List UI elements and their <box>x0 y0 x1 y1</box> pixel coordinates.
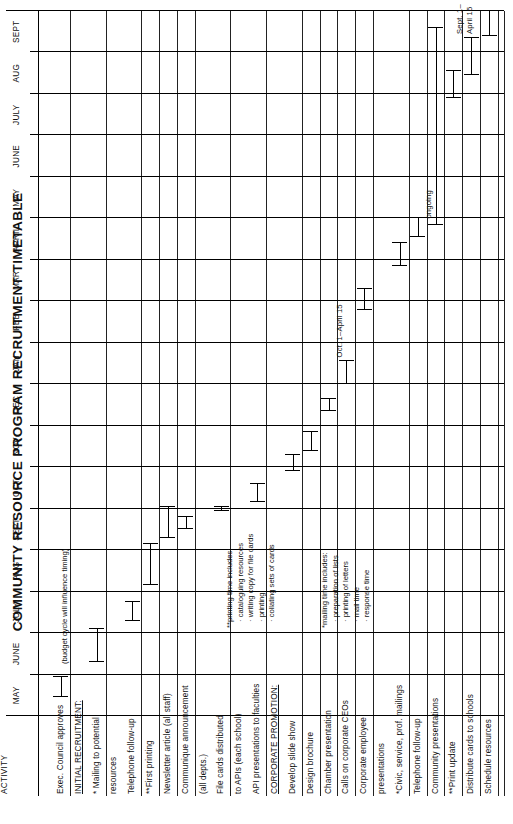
task-bar <box>453 71 454 98</box>
row-separator <box>177 11 178 796</box>
activity-label: Design brochure <box>306 732 315 794</box>
footnote-mailing: *mailing time includes: · preparation of… <box>320 552 373 628</box>
task-bar-end-cap <box>89 628 104 629</box>
task-bar <box>168 507 169 538</box>
activity-label: **Print update <box>448 741 457 794</box>
month-gridline <box>38 217 504 218</box>
annotation-sept-april: Sept. 1–April 15 <box>455 4 474 34</box>
task-bar-start-cap <box>143 584 158 585</box>
budget-note: (budget cycle will influence timing) <box>60 549 69 664</box>
task-bar-start-cap <box>250 501 265 502</box>
task-bar <box>97 629 98 662</box>
activity-label: File cards distributed <box>216 715 225 794</box>
task-bar-end-cap <box>446 70 461 71</box>
task-bar-start-cap <box>339 383 354 384</box>
task-bar-end-cap <box>285 454 300 455</box>
activity-label: Newsletter article (all staff) <box>163 693 172 794</box>
footnote-printing: **printing time includes: · cataloguing … <box>225 534 278 628</box>
task-bar-start-cap <box>392 265 407 266</box>
footnote-mailing-item: · mail time <box>352 552 363 628</box>
task-bar-start-cap <box>178 528 193 529</box>
task-bar-end-cap <box>53 676 68 677</box>
month-label-mar-10: MAR <box>12 271 21 290</box>
month-gridline <box>38 342 504 343</box>
task-bar-start-cap <box>446 97 461 98</box>
task-bar <box>150 544 151 585</box>
month-label-july-2: JULY <box>12 602 21 623</box>
month-gridline <box>38 259 504 260</box>
month-gridline <box>38 383 504 384</box>
activity-label: INITIAL RECRUITMENT: <box>74 700 83 794</box>
activity-column-header: ACTIVITY <box>0 755 9 794</box>
row-separator <box>266 11 267 796</box>
activity-label: *Civic, service, prof. mailings <box>395 685 404 794</box>
task-bar-start-cap <box>464 74 479 75</box>
month-label-aug-15: AUG <box>12 64 21 83</box>
task-bar <box>418 218 419 237</box>
task-bar <box>364 289 365 310</box>
activity-label: Develop slide show <box>288 721 297 794</box>
month-gridline <box>38 466 504 467</box>
activity-label: Schedule resources <box>484 719 493 794</box>
row-separator <box>106 11 107 796</box>
task-bar <box>489 11 490 36</box>
row-separator <box>70 11 71 796</box>
task-bar <box>257 484 258 503</box>
task-bar-end-cap <box>482 10 497 11</box>
footnote-mailing-item: · preparation of lists <box>331 552 342 628</box>
task-bar <box>346 361 347 384</box>
footnote-printing-item: · collating sets of cards <box>267 534 278 628</box>
bottom-rule <box>504 11 505 796</box>
task-bar-end-cap <box>303 431 318 432</box>
month-label-nov-6: NOV <box>12 437 21 456</box>
footnote-mailing-item: · response time <box>362 552 373 628</box>
timetable-chart: COMMUNITY RESOURCE PROGRAM RECRUITMENT T… <box>0 0 513 824</box>
activity-label: Telephone follow-up <box>127 718 136 794</box>
rotated-page-wrapper: COMMUNITY RESOURCE PROGRAM RECRUITMENT T… <box>0 0 513 824</box>
row-separator <box>480 11 481 796</box>
footnote-printing-item: · cataloguing resources <box>236 534 247 628</box>
row-separator <box>320 11 321 796</box>
task-bar <box>132 602 133 621</box>
footnote-printing-item: · printing <box>257 534 268 628</box>
month-label-june-1: JUNE <box>12 643 21 666</box>
task-bar <box>400 243 401 266</box>
month-label-july-14: JULY <box>12 104 21 125</box>
footnote-mailing-heading: *mailing time includes: <box>320 552 331 628</box>
task-bar-start-cap <box>160 537 175 538</box>
row-separator <box>230 11 231 796</box>
task-bar-end-cap <box>143 543 158 544</box>
row-separator <box>159 11 160 796</box>
task-bar-end-cap <box>428 27 443 28</box>
task-bar-end-cap <box>321 398 336 399</box>
month-gridline <box>38 674 504 675</box>
month-axis: MAYJUNEJULYAUGSEPTOCTNOVDECJANFEBMARAPRI… <box>6 11 36 716</box>
activity-label: (all depts.) <box>199 754 208 794</box>
row-separator <box>355 11 356 796</box>
activity-label: Exec. Council approves <box>56 705 65 794</box>
row-separator <box>141 11 142 796</box>
month-gridline <box>38 632 504 633</box>
month-label-jan-8: JAN <box>12 355 21 371</box>
row-separator <box>409 11 410 796</box>
task-bar <box>471 38 472 75</box>
activity-label: Corporate employee <box>359 717 368 794</box>
activity-label: Community presentations <box>431 698 440 794</box>
month-gridline <box>38 93 504 94</box>
task-bar <box>293 455 294 472</box>
activity-label: presentations <box>377 743 386 794</box>
activity-label: **First printing <box>145 740 154 794</box>
month-label-may-0: MAY <box>12 686 21 704</box>
footnote-mailing-item: · printing of letters <box>341 552 352 628</box>
month-label-april-11: APRIL <box>12 227 21 252</box>
activity-label: CORPORATE PROMOTION: <box>270 685 279 794</box>
activity-label: to APIs (each school) <box>234 713 243 794</box>
row-separator <box>302 11 303 796</box>
task-bar-start-cap <box>321 410 336 411</box>
task-bar-end-cap <box>464 37 479 38</box>
task-bar-start-cap <box>303 450 318 451</box>
task-bar-end-cap <box>250 483 265 484</box>
task-bar <box>436 28 437 225</box>
task-bar-start-cap <box>285 470 300 471</box>
month-label-oct-5: OCT <box>12 479 21 497</box>
